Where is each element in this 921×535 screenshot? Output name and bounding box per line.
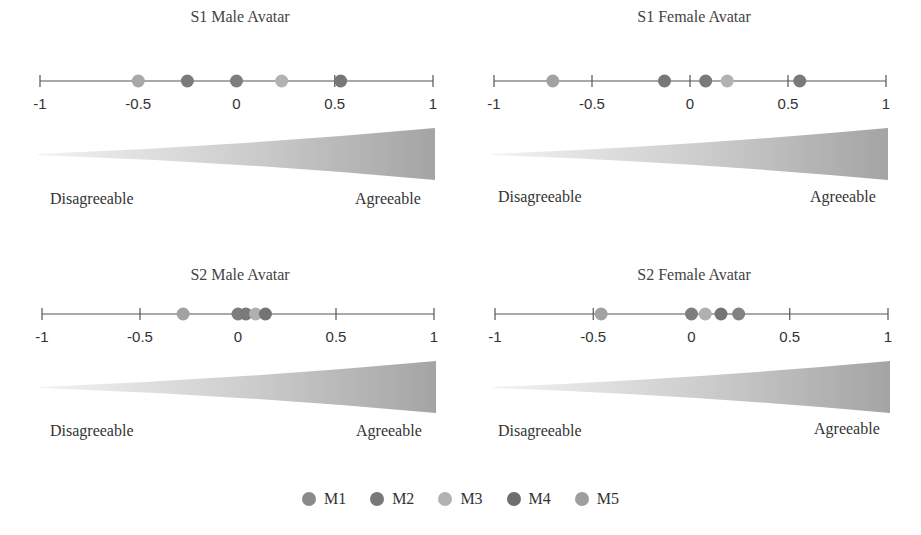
- axis-strip: -1-0.500.51: [30, 8, 450, 218]
- data-point-m5: [177, 308, 190, 321]
- legend-label: M1: [324, 490, 346, 508]
- data-point-m4: [793, 75, 806, 88]
- data-point-m5: [132, 75, 145, 88]
- panel-s1-female: S1 Female Avatar -1-0.500.51 Disagreeabl…: [484, 8, 904, 218]
- axis-strip: -1-0.500.51: [484, 8, 904, 218]
- legend-label: M4: [529, 490, 551, 508]
- tick-label: -0.5: [579, 95, 605, 112]
- data-point-m1: [685, 308, 698, 321]
- data-point-m4: [259, 308, 272, 321]
- agreeableness-wedge: [493, 361, 890, 413]
- legend-dot-icon: [507, 492, 521, 506]
- axis-strip: -1-0.500.51: [30, 266, 450, 476]
- data-point-m1: [230, 75, 243, 88]
- legend-item-m2: M2: [370, 490, 414, 508]
- tick-label: 0.5: [326, 328, 347, 345]
- panel-s1-male: S1 Male Avatar -1-0.500.51 Disagreeable …: [30, 8, 450, 218]
- right-pole-label: Agreeable: [356, 422, 422, 440]
- legend-item-m5: M5: [575, 490, 619, 508]
- tick-label: -1: [488, 328, 501, 345]
- tick-label: 0: [234, 328, 242, 345]
- legend-item-m1: M1: [302, 490, 346, 508]
- legend: M1 M2 M3 M4 M5: [0, 490, 921, 508]
- data-point-m5: [546, 75, 559, 88]
- data-point-m1: [699, 75, 712, 88]
- left-pole-label: Disagreeable: [50, 190, 134, 208]
- tick-label: -1: [487, 95, 500, 112]
- right-pole-label: Agreeable: [810, 188, 876, 206]
- legend-label: M5: [597, 490, 619, 508]
- legend-dot-icon: [370, 492, 384, 506]
- tick-label: 0.5: [779, 328, 800, 345]
- tick-label: -0.5: [125, 95, 151, 112]
- panel-s2-female: S2 Female Avatar -1-0.500.51 Disagreeabl…: [484, 266, 904, 476]
- panel-s2-male: S2 Male Avatar -1-0.500.51 Disagreeable …: [30, 266, 450, 476]
- legend-dot-icon: [438, 492, 452, 506]
- tick-label: -0.5: [127, 328, 153, 345]
- data-point-m4: [334, 75, 347, 88]
- tick-label: 1: [429, 95, 437, 112]
- axis-strip: -1-0.500.51: [484, 266, 904, 476]
- data-point-m5: [595, 308, 608, 321]
- tick-label: -0.5: [580, 328, 606, 345]
- legend-dot-icon: [575, 492, 589, 506]
- data-point-m2: [732, 308, 745, 321]
- legend-label: M3: [460, 490, 482, 508]
- left-pole-label: Disagreeable: [498, 422, 582, 440]
- tick-label: 0.5: [778, 95, 799, 112]
- data-point-m3: [721, 75, 734, 88]
- tick-label: 1: [430, 328, 438, 345]
- tick-label: -1: [33, 95, 46, 112]
- left-pole-label: Disagreeable: [50, 422, 134, 440]
- tick-label: 1: [882, 95, 890, 112]
- right-pole-label: Agreeable: [355, 190, 421, 208]
- legend-item-m3: M3: [438, 490, 482, 508]
- data-point-m3: [699, 308, 712, 321]
- legend-label: M2: [392, 490, 414, 508]
- right-pole-label: Agreeable: [814, 420, 880, 438]
- data-point-m4: [714, 308, 727, 321]
- tick-label: 0: [232, 95, 240, 112]
- tick-label: 0: [687, 328, 695, 345]
- legend-dot-icon: [302, 492, 316, 506]
- tick-label: 0.5: [324, 95, 345, 112]
- tick-label: 0: [686, 95, 694, 112]
- data-point-m3: [275, 75, 288, 88]
- tick-label: -1: [35, 328, 48, 345]
- agreeableness-wedge: [40, 361, 436, 413]
- data-point-m2: [658, 75, 671, 88]
- left-pole-label: Disagreeable: [498, 188, 582, 206]
- data-point-m2: [181, 75, 194, 88]
- agreeableness-wedge: [492, 128, 888, 180]
- legend-item-m4: M4: [507, 490, 551, 508]
- tick-label: 1: [884, 328, 892, 345]
- agreeableness-wedge: [38, 128, 435, 180]
